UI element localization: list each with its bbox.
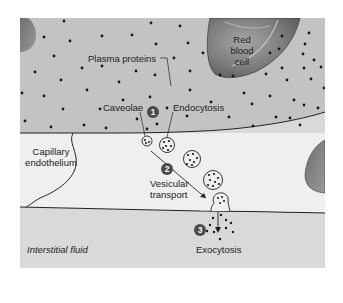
step-2-badge: 2 [161, 163, 173, 175]
endocytosis-label: Endocytosis [173, 102, 224, 113]
interstitial-fluid-label: Interstitial fluid [27, 244, 88, 255]
vesicular-transport-label-line2: transport [150, 189, 189, 200]
capillary-endothelium-label: Capillary endothelium [20, 146, 82, 168]
exocytosis-label: Exocytosis [196, 244, 241, 255]
red-blood-cell-label-line1: Red [222, 34, 262, 45]
caveola-vesicle [142, 136, 152, 146]
vesicular-transport-label-line1: Vesicular [150, 178, 189, 189]
transport-vesicle-2 [204, 171, 223, 190]
red-blood-cell-label: Red blood cell [222, 34, 262, 67]
red-blood-cell-label-line2: blood [222, 45, 262, 56]
red-blood-cell-label-line3: cell [222, 56, 262, 67]
vesicular-transport-label: Vesicular transport [150, 178, 189, 200]
capillary-endothelium-label-line1: Capillary [20, 146, 82, 157]
caveolae-label: Caveolae [103, 102, 143, 113]
capillary-endothelium-label-line2: endothelium [20, 157, 82, 168]
step-1-badge: 1 [147, 106, 159, 118]
step-3-badge: 3 [194, 224, 206, 236]
plasma-proteins-label: Plasma proteins [88, 53, 156, 64]
vesicular-transport-diagram: Plasma proteins Red blood cell Caveolae … [0, 0, 343, 303]
transport-vesicle-1 [184, 151, 201, 168]
endocytosis-vesicle [160, 138, 175, 153]
